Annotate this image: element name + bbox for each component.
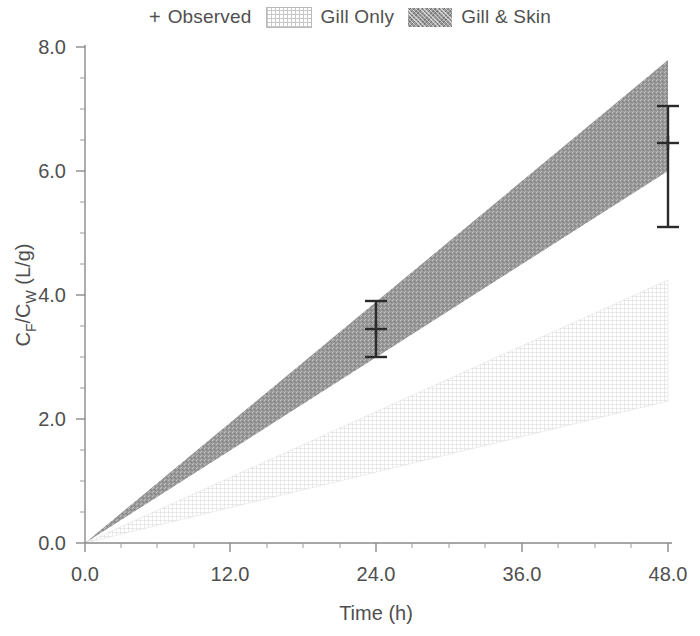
plot-area: 8.0 6.0 4.0 2.0 0.0 0.0 12.0 24.0 36.0 4… [0, 0, 700, 636]
y-tick-label-0: 0.0 [38, 532, 66, 554]
x-tick-label-48: 48.0 [649, 563, 688, 585]
y-tick-label-2: 2.0 [38, 408, 66, 430]
x-axis-major-ticks [85, 543, 668, 552]
svg-text:CF/CW (L/g): CF/CW (L/g) [12, 244, 39, 347]
y-axis-title: CF/CW (L/g) [12, 244, 39, 347]
y-axis-title-units: (L/g) [12, 244, 34, 291]
x-tick-label-0: 0.0 [71, 563, 99, 585]
y-axis-title-sub-f: F [23, 323, 39, 332]
chart-figure: + Observed Gill Only Gill & Skin [0, 0, 700, 636]
y-axis-title-slash: /C [12, 303, 34, 323]
y-tick-label-8: 8.0 [38, 36, 66, 58]
y-tick-label-4: 4.0 [38, 284, 66, 306]
y-axis-title-c1: C [12, 332, 34, 346]
y-axis-title-sub-w: W [23, 289, 39, 303]
x-tick-label-12: 12.0 [211, 563, 250, 585]
y-tick-label-6: 6.0 [38, 160, 66, 182]
x-axis-title: Time (h) [339, 602, 413, 624]
y-axis-major-ticks [76, 47, 85, 543]
x-tick-label-36: 36.0 [503, 563, 542, 585]
x-tick-label-24: 24.0 [357, 563, 396, 585]
